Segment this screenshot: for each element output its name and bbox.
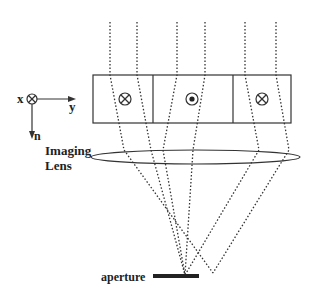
ray <box>185 22 259 275</box>
axis-x-label: x <box>17 91 24 106</box>
aperture-label: aperture <box>101 270 146 284</box>
ray <box>163 22 185 275</box>
sample-box <box>93 75 291 123</box>
axis-y-label: y <box>69 99 76 114</box>
aperture-bar <box>153 274 199 278</box>
cross-in-circle-icon <box>256 93 268 105</box>
light-rays <box>110 22 289 275</box>
lens-label-line2: Lens <box>45 158 72 173</box>
cross-in-circle-icon <box>119 93 131 105</box>
axis-n-label: n <box>34 129 41 143</box>
optics-diagram: x y n Imaging Lens <box>0 0 314 294</box>
ray <box>213 22 289 273</box>
imaging-lens <box>91 150 300 164</box>
dot-in-circle-icon <box>186 93 198 105</box>
ray <box>110 22 213 273</box>
lens-label-line1: Imaging <box>45 143 92 158</box>
ray <box>185 22 205 275</box>
